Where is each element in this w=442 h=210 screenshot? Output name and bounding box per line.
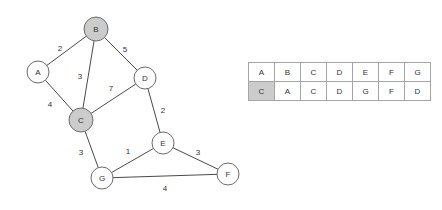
graph-edges-layer — [45, 36, 218, 178]
table-value-cell-2: C — [301, 82, 327, 101]
graph-edge-b-c — [83, 41, 94, 108]
edge-weight-e-f: 3 — [196, 148, 201, 157]
edge-weight-a-c: 4 — [48, 100, 53, 109]
edge-weight-a-b: 2 — [58, 44, 63, 53]
graph-node-f[interactable]: F — [217, 163, 239, 185]
graph-edge-g-f — [113, 174, 217, 177]
graph-node-b[interactable]: B — [84, 17, 108, 41]
table-value-cell-0: C — [249, 82, 275, 101]
table-header-cell-3: D — [327, 63, 353, 82]
graph-node-label-f: F — [226, 170, 231, 179]
table-header-cell-6: G — [405, 63, 431, 82]
graph-node-label-g: G — [99, 174, 105, 183]
edge-weight-g-e: 1 — [126, 147, 131, 156]
edge-weight-d-e: 2 — [161, 106, 166, 115]
graph-edge-a-b — [47, 36, 87, 65]
table-header-cell-2: C — [301, 63, 327, 82]
graph-node-g[interactable]: G — [91, 167, 113, 189]
table-header-cell-0: A — [249, 63, 275, 82]
graph-edge-c-g — [85, 131, 98, 167]
edge-weight-b-d: 5 — [123, 45, 128, 54]
graph-node-a[interactable]: A — [27, 61, 49, 83]
table-value-cell-6: D — [405, 82, 431, 101]
graph-edge-b-d — [104, 37, 137, 70]
table-value-row: CACDGFD — [249, 82, 431, 101]
graph-edge-c-d — [91, 84, 136, 113]
table-header-cell-5: F — [379, 63, 405, 82]
graph-edge-g-e — [112, 148, 154, 172]
graph-svg: 2534723134 ABCDEFG — [0, 0, 442, 210]
graph-node-label-a: A — [35, 68, 41, 77]
edge-weight-c-d: 7 — [109, 84, 114, 93]
table-header-cell-1: B — [275, 63, 301, 82]
result-table: ABCDEFG CACDGFD — [248, 62, 431, 101]
table-header-cell-4: E — [353, 63, 379, 82]
table-header-row: ABCDEFG — [249, 63, 431, 82]
edge-weight-b-c: 3 — [78, 72, 83, 81]
table-value-cell-4: G — [353, 82, 379, 101]
graph-node-label-d: D — [142, 74, 148, 83]
table-value-cell-3: D — [327, 82, 353, 101]
graph-node-label-e: E — [160, 139, 165, 148]
edge-weight-g-f: 4 — [163, 184, 168, 193]
graph-node-label-b: B — [93, 25, 98, 34]
table-value-cell-5: F — [379, 82, 405, 101]
graph-node-e[interactable]: E — [152, 132, 174, 154]
edge-weight-c-g: 3 — [79, 148, 84, 157]
table-value-cell-1: A — [275, 82, 301, 101]
graph-node-d[interactable]: D — [134, 67, 156, 89]
graph-edge-d-e — [148, 89, 160, 133]
diagram-canvas: 2534723134 ABCDEFG ABCDEFG CACDGFD — [0, 0, 442, 210]
graph-node-c[interactable]: C — [69, 108, 93, 132]
graph-node-label-c: C — [78, 116, 84, 125]
